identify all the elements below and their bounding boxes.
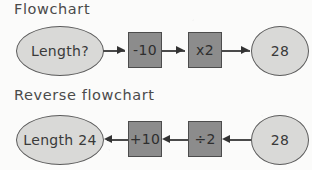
forward-arrowhead-3-icon: [241, 46, 249, 54]
forward-flowchart-row: Length? -10 x2 28: [0, 24, 312, 80]
reverse-operation-2-label: ÷2: [194, 131, 215, 147]
reverse-operation-1-label: +10: [130, 131, 160, 147]
reverse-start-ellipse[interactable]: 28: [251, 115, 309, 165]
forward-operation-2-label: x2: [196, 42, 214, 58]
reverse-start-label: 28: [271, 132, 289, 148]
flowchart-canvas: Flowchart Length? -10 x2 28 Reverse flow…: [0, 0, 312, 170]
reverse-result-ellipse[interactable]: Length 24: [16, 115, 104, 165]
forward-operation-1-label: -10: [133, 42, 157, 58]
forward-start-ellipse[interactable]: Length?: [16, 26, 104, 76]
forward-operation-2-box[interactable]: x2: [188, 32, 222, 68]
reverse-flowchart-row: Length 24 +10 ÷2 28: [0, 113, 312, 170]
forward-end-ellipse[interactable]: 28: [251, 26, 309, 76]
reverse-operation-2-box[interactable]: ÷2: [188, 121, 222, 157]
forward-arrowhead-2-icon: [176, 46, 184, 54]
forward-arrowhead-1-icon: [117, 46, 125, 54]
reverse-result-label: Length 24: [23, 132, 96, 148]
forward-flowchart-title: Flowchart: [14, 1, 90, 17]
reverse-arrowhead-2-icon: [162, 135, 170, 143]
forward-end-label: 28: [271, 43, 289, 59]
forward-start-label: Length?: [31, 43, 89, 59]
reverse-arrowhead-3-icon: [222, 135, 230, 143]
forward-operation-1-box[interactable]: -10: [128, 32, 162, 68]
reverse-flowchart-title: Reverse flowchart: [14, 87, 155, 103]
reverse-connector-3: [226, 139, 253, 141]
reverse-operation-1-box[interactable]: +10: [128, 121, 162, 157]
reverse-arrowhead-1-icon: [104, 135, 112, 143]
